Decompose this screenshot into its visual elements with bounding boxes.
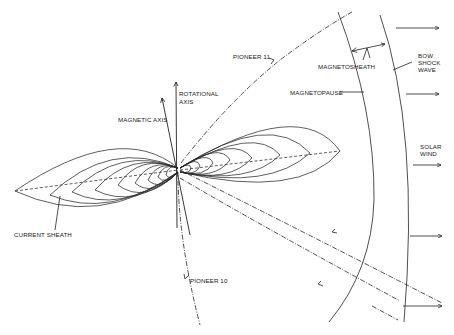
- solar-wind-label-1: SOLAR: [420, 143, 442, 150]
- pioneer11-label: PIONEER 11: [233, 53, 270, 60]
- magnetosheath-pointer: [363, 48, 370, 60]
- magnetosheath-label: MAGNETOSHEATH: [318, 63, 375, 70]
- bow-shock-line: [380, 15, 409, 322]
- pioneer10-label: PIONEER 10: [190, 277, 228, 284]
- bow-shock-pointer: [393, 62, 412, 70]
- field-lines-left: [15, 149, 178, 207]
- magnetopause-label: MAGNETOPAUSE: [290, 89, 343, 96]
- magnetosheath-arrow: [352, 44, 385, 51]
- bow-shock-label-1: BOW: [418, 52, 433, 59]
- current-sheath-label: CURRENT SHEATH: [14, 231, 72, 238]
- magnetosphere-diagram: PIONEER 11 ROTATIONAL AXIS MAGNETIC AXIS…: [0, 0, 454, 335]
- pioneer11-trajectory: [181, 12, 352, 163]
- magnetopause-line: [329, 12, 374, 322]
- rotational-axis-label: ROTATIONAL: [179, 90, 219, 97]
- rotational-axis: [176, 82, 177, 228]
- solar-wind-label-2: WIND: [420, 150, 437, 157]
- bow-shock-label-2: SHOCK: [418, 59, 441, 66]
- bow-shock-label-3: WAVE: [418, 66, 436, 73]
- current-sheath-pointer: [55, 196, 60, 230]
- pioneer10-trajectory: [178, 172, 200, 325]
- magnetic-axis-label: MAGNETIC AXIS: [118, 116, 167, 123]
- rotational-axis-label-2: AXIS: [179, 98, 194, 105]
